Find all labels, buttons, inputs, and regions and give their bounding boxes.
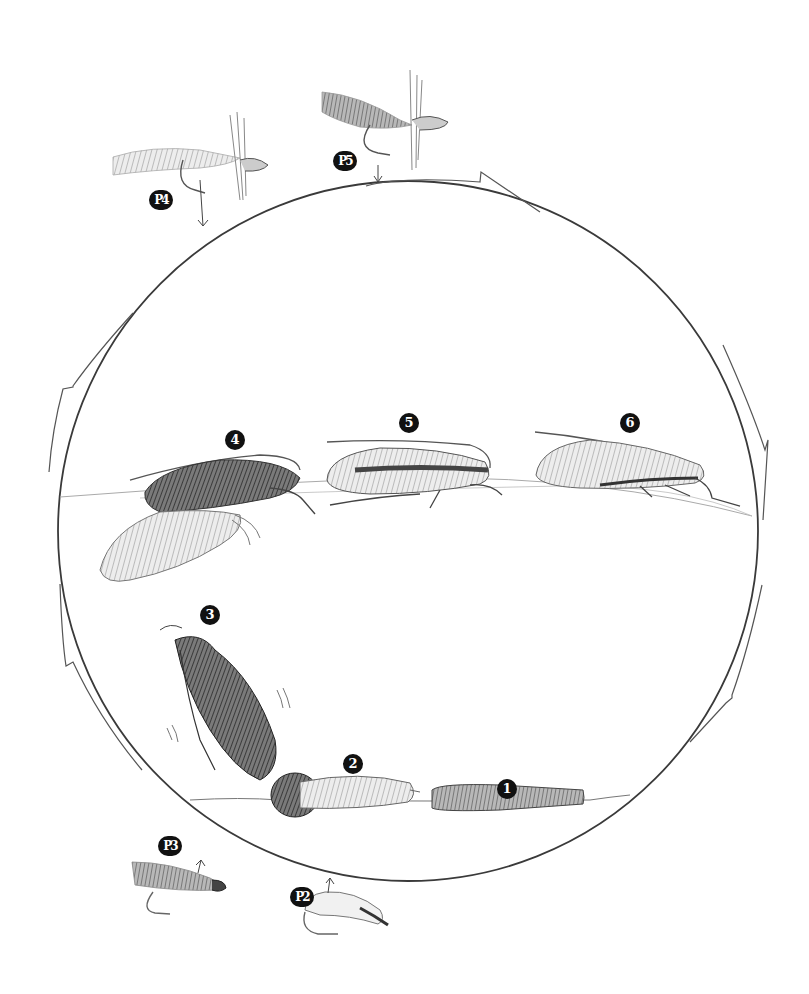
pattern-p4-fly (113, 112, 268, 226)
life-cycle-diagram (0, 0, 809, 994)
cycle-arrow-right-lower (690, 585, 762, 742)
stage-3-swimming-pupa (160, 625, 290, 780)
stage-5-badge: 5 (399, 413, 419, 433)
cycle-arrow-left-upper (49, 313, 133, 472)
stage-2-larva (271, 773, 420, 817)
pattern-p3-fly (132, 860, 226, 914)
stage-5-adult-caddis (327, 441, 502, 508)
cycle-arrow-top-right (366, 172, 540, 212)
pattern-p2-badge: P2 (290, 887, 314, 907)
stage-4-badge: 4 (225, 430, 245, 450)
pattern-p3-badge: P3 (158, 836, 182, 856)
pattern-p2-fly (304, 878, 388, 934)
stage-1-badge: 1 (497, 779, 517, 799)
pattern-p5-badge: P5 (333, 151, 357, 171)
stage-4-emerging-adult (100, 455, 315, 581)
cycle-arrow-right-upper (723, 345, 768, 520)
pattern-p4-badge: P4 (149, 190, 173, 210)
stage-2-badge: 2 (343, 754, 363, 774)
stage-3-badge: 3 (200, 605, 220, 625)
stage-6-badge: 6 (620, 413, 640, 433)
stage-6-adult-caddis (535, 432, 740, 506)
